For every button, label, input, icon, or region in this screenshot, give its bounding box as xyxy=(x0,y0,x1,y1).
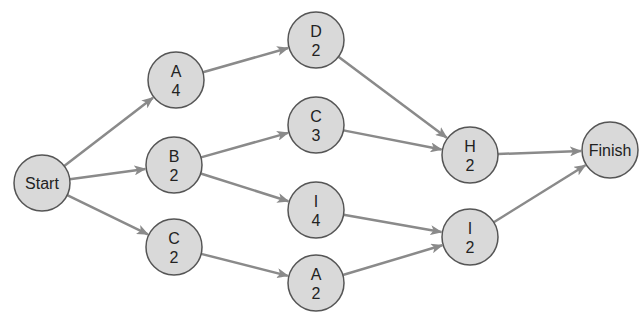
node-duration: 3 xyxy=(312,127,321,144)
node-duration: 2 xyxy=(312,285,321,302)
node-circle xyxy=(288,182,344,238)
nodes: StartA4B2C2D2C3I4A2H2I2Finish xyxy=(14,12,638,311)
node-a2: A2 xyxy=(288,255,344,311)
edge-start-to-a4 xyxy=(64,98,153,166)
node-c3: C3 xyxy=(288,97,344,153)
node-activity: C xyxy=(168,230,180,247)
node-circle xyxy=(146,137,202,193)
node-b2: B2 xyxy=(146,137,202,193)
node-circle xyxy=(288,97,344,153)
node-activity: C xyxy=(310,108,322,125)
node-circle xyxy=(442,127,498,183)
node-circle xyxy=(146,219,202,275)
node-finish: Finish xyxy=(582,122,638,178)
node-label: Start xyxy=(25,175,59,192)
edge-b2-to-c3 xyxy=(201,133,288,158)
node-c2: C2 xyxy=(146,219,202,275)
edge-c3-to-h2 xyxy=(343,130,441,149)
node-activity: A xyxy=(311,266,322,283)
edge-i2-to-finish xyxy=(494,165,586,222)
node-circle xyxy=(442,209,498,265)
node-activity: H xyxy=(464,138,476,155)
edge-start-to-b2 xyxy=(70,169,146,179)
node-duration: 2 xyxy=(170,167,179,184)
node-circle xyxy=(288,12,344,68)
node-duration: 2 xyxy=(466,157,475,174)
node-duration: 4 xyxy=(172,82,181,99)
node-activity: B xyxy=(169,148,180,165)
node-i4: I4 xyxy=(288,182,344,238)
node-activity: A xyxy=(171,63,182,80)
edge-h2-to-finish xyxy=(498,151,581,154)
node-label: Finish xyxy=(589,142,632,159)
node-duration: 2 xyxy=(312,42,321,59)
edges xyxy=(64,48,585,276)
node-h2: H2 xyxy=(442,127,498,183)
edge-b2-to-i4 xyxy=(201,173,289,201)
network-diagram: StartA4B2C2D2C3I4A2H2I2Finish xyxy=(0,0,643,317)
node-circle xyxy=(288,255,344,311)
edge-i4-to-i2 xyxy=(344,215,442,232)
node-start: Start xyxy=(14,155,70,211)
node-duration: 2 xyxy=(170,249,179,266)
node-circle xyxy=(148,52,204,108)
node-activity: D xyxy=(310,23,322,40)
edge-c2-to-a2 xyxy=(201,254,288,276)
node-duration: 4 xyxy=(312,212,321,229)
node-activity: I xyxy=(314,193,318,210)
node-i2: I2 xyxy=(442,209,498,265)
node-duration: 2 xyxy=(466,239,475,256)
edge-a2-to-i2 xyxy=(343,245,442,275)
node-a4: A4 xyxy=(148,52,204,108)
edge-start-to-c2 xyxy=(67,195,148,234)
edge-d2-to-h2 xyxy=(338,57,446,138)
node-d2: D2 xyxy=(288,12,344,68)
edge-a4-to-d2 xyxy=(203,48,288,72)
node-activity: I xyxy=(468,220,472,237)
